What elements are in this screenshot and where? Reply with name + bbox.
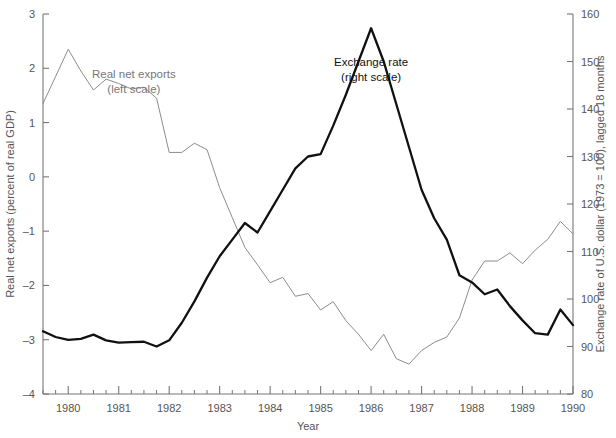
left-axis-tick-label: –4 [23,388,35,400]
left-axis-tick-label: 3 [29,8,35,20]
x-axis-tick-label: 1988 [460,402,484,414]
chart-figure: 3210–1–2–3–41601501401301201101009080198… [0,0,616,438]
left-axis-tick-label: 1 [29,117,35,129]
dual-axis-line-chart: 3210–1–2–3–41601501401301201101009080198… [0,0,616,438]
x-axis-tick-label: 1982 [157,402,181,414]
left-axis-title: Real net exports (percent of real GDP) [4,110,16,298]
series-annotation-title-1: Exchange rate [334,56,408,68]
x-axis-tick-label: 1984 [258,402,282,414]
x-axis-tick-label: 1990 [561,402,585,414]
x-axis-tick-label: 1980 [56,402,80,414]
x-axis-title: Year [297,420,320,432]
series-annotation-subtitle-1: (right scale) [341,71,401,83]
series-annotation-title-0: Real net exports [92,68,176,80]
left-axis-tick-label: 0 [29,171,35,183]
series-annotation-subtitle-0: (left scale) [107,83,160,95]
left-axis-tick-label: –3 [23,334,35,346]
right-axis-tick-label: 160 [581,8,599,20]
x-axis-tick-label: 1983 [207,402,231,414]
right-axis-title: Exchange rate of U.S. dollar (1973 = 100… [594,55,606,352]
x-axis-tick-label: 1989 [510,402,534,414]
left-axis-tick-label: –2 [23,279,35,291]
right-axis-tick-label: 80 [581,388,593,400]
series-line-real-net-exports [43,49,573,364]
right-axis-tick-label: 90 [581,341,593,353]
left-axis-tick-label: –1 [23,225,35,237]
left-axis-tick-label: 2 [29,62,35,74]
x-axis-tick-label: 1985 [308,402,332,414]
x-axis-tick-label: 1986 [359,402,383,414]
x-axis-tick-label: 1981 [106,402,130,414]
x-axis-tick-label: 1987 [409,402,433,414]
